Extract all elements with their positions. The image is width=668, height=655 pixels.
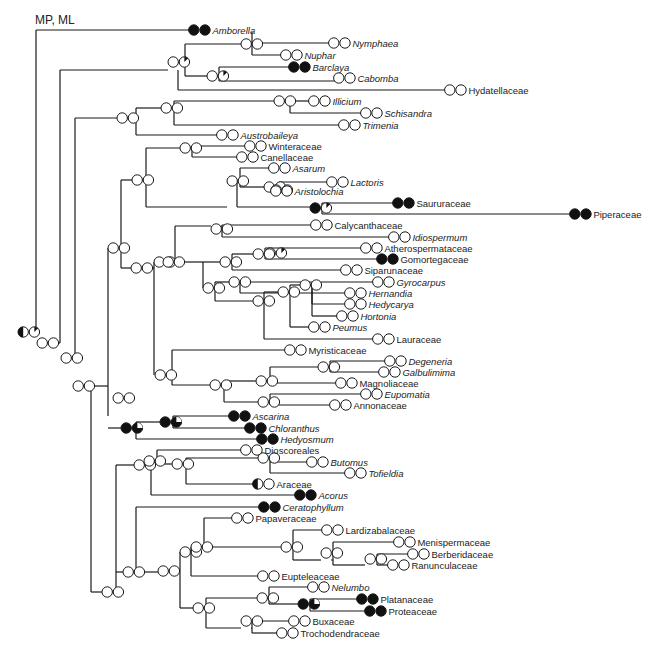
tip-state-pair [285,345,307,355]
state-icon [340,38,350,48]
state-icon [330,400,340,410]
internal-node [172,459,194,469]
state-icon [373,277,383,287]
taxon-ascarina: Ascarina [229,411,290,422]
state-icon [419,549,429,559]
state-icon [253,296,263,306]
internal-node [121,423,143,433]
taxon-label: Berberidaceae [431,549,493,560]
tip-state-pair [334,73,356,83]
state-icon [377,254,387,264]
tree-branches [29,30,576,633]
state-icon [300,280,310,290]
taxon-label: Lardizabalaceae [345,525,415,536]
state-icon [264,296,274,306]
state-icon [320,96,330,106]
internal-node [310,203,332,213]
taxon-label: Saururaceae [416,198,470,209]
taxon-butomus: Butomus [307,457,369,468]
taxon-barclaya: Barclaya [289,62,350,73]
taxon-austrobaileya: Austrobaileya [217,130,298,141]
state-icon [166,370,176,380]
tip-state-pair [345,299,367,309]
taxon-label: Annonaceae [353,400,406,411]
state-icon [320,322,330,332]
taxon-trimenia: Trimenia [339,120,399,131]
taxon-label: Hedyosmum [280,434,333,445]
state-icon [253,479,263,489]
state-icon [229,411,239,421]
state-icon [180,547,190,557]
taxon-eupteleaceae: Eupteleaceae [258,571,340,582]
internal-node [73,381,95,391]
taxon-winteraceae: Winteraceae [245,141,322,152]
state-icon [405,537,415,547]
state-icon [128,113,138,123]
state-icon [202,542,212,552]
state-icon [220,257,230,267]
taxon-galbulimima: Galbulimima [379,367,456,378]
state-icon [339,120,349,130]
state-icon [203,283,213,293]
tip-state-pair [393,198,415,208]
state-icon [18,327,28,337]
state-icon [232,513,242,523]
tip-state-pair [217,130,239,140]
state-icon [174,257,184,267]
tip-state-pair [322,525,344,535]
tip-state-pair [232,513,254,523]
taxon-label: Asarum [291,163,325,174]
state-icon [319,582,329,592]
taxon-label: Idiospermum [412,232,467,243]
state-icon [161,103,171,113]
state-icon [322,525,332,535]
state-icon [191,143,201,153]
taxon-schisandra: Schisandra [361,108,432,119]
state-icon [322,220,332,230]
taxon-label: Illicium [332,96,361,107]
state-icon [240,277,250,287]
tip-state-pair [245,141,267,151]
state-icon [292,50,302,60]
state-icon [296,345,306,355]
phylogenetic-tree: MP, ML AmborellaNymphaeaNupharBarclayaCa… [0,0,668,655]
taxon-label: Degeneria [408,356,452,367]
state-icon [84,381,94,391]
taxon-label: Nymphaea [352,38,398,49]
taxon-hedyosmum: Hedyosmum [257,434,334,445]
state-icon [373,334,383,344]
taxon-siparunaceae: Siparunaceae [341,265,423,276]
internal-node [158,566,180,576]
state-icon [72,353,82,363]
state-icon [193,603,203,613]
taxon-label: Ascarina [251,411,289,422]
state-icon [372,108,382,118]
state-icon [113,393,123,403]
taxon-label: Lactoris [350,177,384,188]
state-icon [248,152,258,162]
state-icon [445,85,455,95]
tip-state-pair [330,400,352,410]
state-icon [282,186,292,196]
taxon-hedycarya: Hedycarya [345,299,414,310]
state-icon [243,513,253,523]
state-icon [289,287,299,297]
tip-state-pair [289,616,311,626]
tip-state-pair [408,549,430,559]
taxon-piperaceae: Piperaceae [570,209,642,220]
taxon-proteaceae: Proteaceae [365,606,437,617]
state-icon [245,423,255,433]
state-icon [119,243,129,253]
state-icon [456,85,466,95]
state-icon [309,96,319,106]
state-icon [295,490,305,500]
taxon-label: Calycanthaceae [334,220,402,231]
state-icon [269,397,279,407]
tip-state-pair [389,232,411,242]
tip-state-pair [377,254,399,264]
internal-node [321,548,343,558]
taxon-araceae: Araceae [253,479,312,490]
state-icon [221,380,231,390]
internal-node [113,393,135,403]
state-icon [229,277,239,287]
